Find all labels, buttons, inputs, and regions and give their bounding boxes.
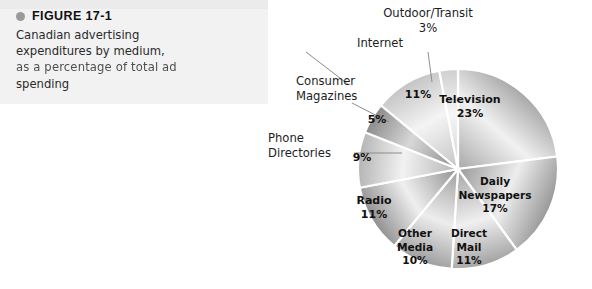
callout-label: PhoneDirectories [268, 131, 331, 160]
figure-root: FIGURE 17-1 Canadian advertising expendi… [0, 0, 592, 289]
caption-line-4: spending [16, 76, 231, 92]
figure-heading: FIGURE 17-1 [16, 9, 112, 23]
slice-label: OtherMedia10% [397, 227, 433, 266]
slice-label: 11% [405, 88, 431, 101]
callout-label: Internet [357, 36, 403, 50]
callout-label: Outdoor/Transit3% [383, 6, 473, 35]
pie-chart: Television23%DailyNewspapers17%DirectMai… [252, 0, 592, 289]
caption-line-3: as a percentage of total ad [16, 59, 231, 75]
caption-line-2: expenditures by medium, [16, 43, 231, 59]
caption-line-1: Canadian advertising [16, 27, 231, 43]
slice-label: 9% [353, 151, 372, 164]
slice-label: Radio11% [356, 194, 392, 221]
caption-panel: FIGURE 17-1 Canadian advertising expendi… [0, 0, 268, 104]
pie-chart-svg: Television23%DailyNewspapers17%DirectMai… [252, 0, 592, 289]
slice-label: 5% [368, 113, 387, 126]
bullet-dot-icon [16, 12, 25, 21]
callout-label: ConsumerMagazines [296, 74, 357, 103]
figure-number: FIGURE 17-1 [32, 9, 112, 23]
figure-caption: Canadian advertising expenditures by med… [16, 27, 231, 92]
